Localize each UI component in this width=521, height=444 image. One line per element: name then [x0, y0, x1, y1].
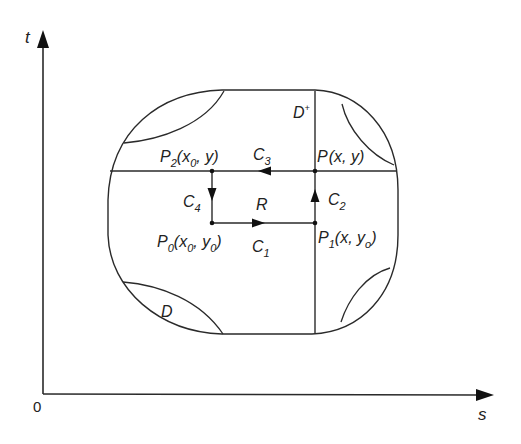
c3-label: C3 — [253, 146, 272, 167]
c2-label: C2 — [328, 191, 346, 212]
s-axis — [43, 394, 478, 395]
lens-bottom-left — [123, 282, 223, 334]
axes — [37, 30, 494, 401]
outer-domain-boundary — [108, 90, 398, 334]
p0-label: P0(x0, y0) — [157, 233, 222, 254]
c3-arrow-icon — [258, 167, 271, 176]
point-p2 — [210, 169, 215, 174]
inner-domain-label: D — [161, 303, 173, 320]
point-p0 — [210, 221, 215, 226]
point-p — [313, 169, 318, 174]
lens-top-left — [124, 91, 224, 143]
c4-label: C4 — [183, 193, 201, 214]
c4-arrow-icon — [208, 188, 217, 201]
t-axis-label: t — [25, 28, 31, 47]
t-axis-arrowhead-icon — [37, 30, 49, 48]
region-r-label: R — [256, 196, 268, 213]
s-axis-label: s — [478, 405, 487, 424]
c1-label: C1 — [252, 238, 270, 259]
p-label: P(x, y) — [317, 148, 364, 165]
diagram-canvas: t s 0 D+ D R C3 C4 C2 C1 P2(x0, y) P(x, … — [0, 0, 521, 444]
s-axis-arrowhead-icon — [476, 389, 494, 401]
p1-label: P1(x, yo) — [318, 229, 376, 250]
point-p1 — [313, 221, 318, 226]
c2-arrow-icon — [311, 189, 320, 202]
origin-label: 0 — [33, 398, 41, 415]
outer-domain-label: D+ — [293, 103, 310, 121]
p2-label: P2(x0, y) — [160, 148, 218, 169]
c1-arrow-icon — [252, 219, 265, 228]
